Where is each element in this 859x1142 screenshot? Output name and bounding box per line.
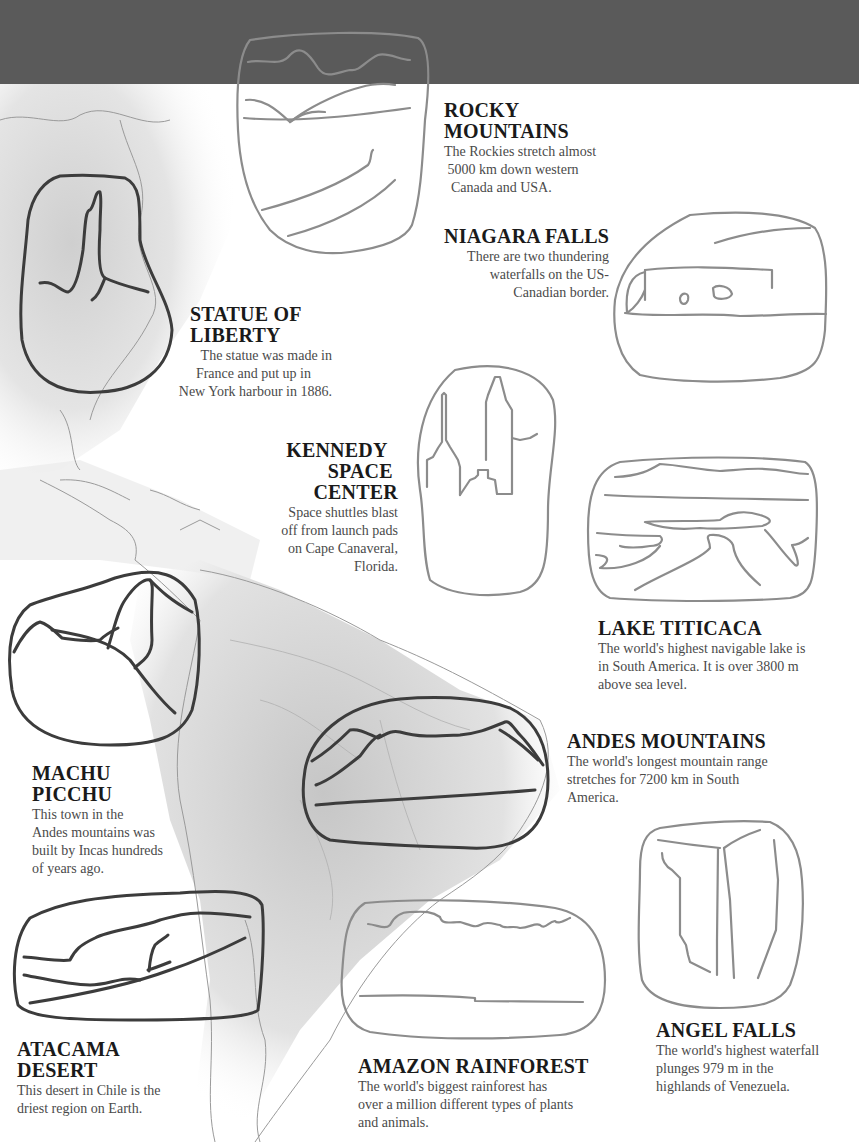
landmark-lake-titicaca: LAKE TITICACA The world's highest naviga… [598, 618, 805, 694]
landmark-statue-of-liberty: STATUE OFLIBERTY The statue was made inF… [162, 304, 332, 401]
landmark-title: ANGEL FALLS [656, 1020, 819, 1041]
landmark-angel-falls: ANGEL FALLS The world's highest waterfal… [656, 1020, 819, 1096]
landmark-description: This town in theAndes mountains wasbuilt… [32, 806, 163, 878]
landmark-niagara-falls: NIAGARA FALLS There are two thunderingwa… [444, 226, 609, 302]
landmark-title: MACHUPICCHU [32, 763, 163, 805]
landmark-title: AMAZON RAINFOREST [358, 1056, 589, 1077]
landmark-description: The world's highest waterfallplunges 979… [656, 1042, 819, 1096]
landmark-title: KENNEDY SPACE CENTER [268, 440, 398, 503]
landmark-description: Space shuttles blastoff from launch pads… [268, 504, 398, 576]
landmark-machu-picchu: MACHUPICCHU This town in theAndes mounta… [32, 763, 163, 878]
landmark-title: STATUE OFLIBERTY [162, 304, 332, 346]
landmark-description: The world's longest mountain rangestretc… [567, 753, 768, 807]
landmark-description: This desert in Chile is thedriest region… [17, 1082, 160, 1118]
americas-map [0, 0, 859, 1142]
landmark-description: The world's biggest rainforest hasover a… [358, 1078, 589, 1132]
landmark-amazon-rainforest: AMAZON RAINFOREST The world's biggest ra… [358, 1056, 589, 1132]
landmark-kennedy-space-center: KENNEDY SPACE CENTER Space shuttles blas… [268, 440, 398, 576]
landmark-title: ATACAMADESERT [17, 1039, 160, 1081]
landmark-description: There are two thunderingwaterfalls on th… [444, 248, 609, 302]
landmark-description: The Rockies stretch almost 5000 km down … [444, 143, 596, 197]
landmark-title: ROCKYMOUNTAINS [444, 100, 596, 142]
landmark-rocky-mountains: ROCKYMOUNTAINS The Rockies stretch almos… [444, 100, 596, 197]
landmark-title: ANDES MOUNTAINS [567, 731, 768, 752]
landmark-description: The statue was made inFrance and put up … [162, 347, 332, 401]
landmark-title: NIAGARA FALLS [444, 226, 609, 247]
landmark-title: LAKE TITICACA [598, 618, 805, 639]
landmark-description: The world's highest navigable lake isin … [598, 640, 805, 694]
landmark-atacama-desert: ATACAMADESERT This desert in Chile is th… [17, 1039, 160, 1118]
landmark-andes-mountains: ANDES MOUNTAINS The world's longest moun… [567, 731, 768, 807]
